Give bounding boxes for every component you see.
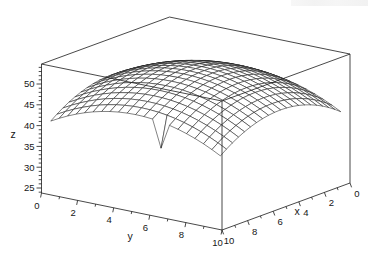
z-tick-label: 40 bbox=[24, 120, 35, 131]
x-tick-label: 0 bbox=[354, 188, 359, 199]
z-tick-label: 50 bbox=[24, 78, 35, 89]
z-axis-ticks: 253035404550 bbox=[24, 67, 42, 193]
z-tick-label: 30 bbox=[24, 162, 35, 173]
x-tick-label: 10 bbox=[224, 235, 235, 246]
z-tick-label: 45 bbox=[24, 99, 35, 110]
x-tick-label: 8 bbox=[252, 226, 257, 237]
z-tick-label: 35 bbox=[24, 141, 35, 152]
plot-canvas: 25303540455002468100246810 x y z bbox=[0, 0, 368, 257]
x-axis-label: x bbox=[294, 206, 299, 217]
y-tick-label: 10 bbox=[212, 237, 223, 248]
surface-plot-svg: 25303540455002468100246810 bbox=[0, 0, 368, 257]
y-tick-label: 6 bbox=[143, 222, 148, 233]
y-axis-label: y bbox=[127, 231, 132, 242]
y-tick-label: 8 bbox=[179, 229, 184, 240]
y-tick-label: 2 bbox=[70, 207, 75, 218]
x-tick-label: 2 bbox=[329, 197, 334, 208]
y-tick-label: 0 bbox=[34, 200, 39, 211]
y-tick-label: 4 bbox=[107, 214, 112, 225]
x-tick-label: 4 bbox=[303, 207, 308, 218]
x-axis-ticks: 0246810 bbox=[222, 183, 360, 246]
x-tick-label: 6 bbox=[278, 216, 283, 227]
z-axis-label: z bbox=[10, 129, 15, 140]
z-tick-label: 25 bbox=[24, 182, 35, 193]
